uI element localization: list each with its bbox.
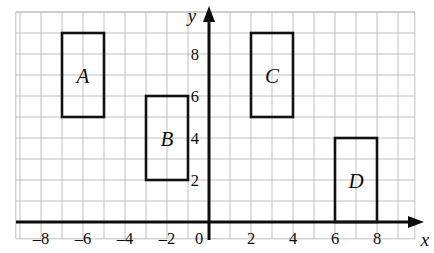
x-tick-label: 6 bbox=[331, 229, 339, 248]
figure-background bbox=[0, 0, 434, 253]
y-tick-label: 2 bbox=[191, 171, 199, 190]
x-tick-label: –2 bbox=[158, 229, 176, 248]
x-axis-name: x bbox=[420, 229, 430, 250]
y-axis-name: y bbox=[186, 5, 197, 26]
shape-label-d: D bbox=[347, 169, 363, 193]
shape-label-b: B bbox=[161, 127, 174, 151]
x-tick-label: 8 bbox=[373, 229, 381, 248]
x-tick-label: 4 bbox=[289, 229, 297, 248]
x-tick-label: –8 bbox=[32, 229, 50, 248]
x-tick-label: 2 bbox=[247, 229, 255, 248]
y-tick-label: 6 bbox=[191, 87, 199, 106]
origin-label: 0 bbox=[195, 229, 203, 248]
coordinate-plane-figure: –8–6–4–2024682468 ABCD xy bbox=[0, 0, 434, 253]
y-tick-label: 8 bbox=[191, 45, 199, 64]
x-tick-label: –6 bbox=[74, 229, 92, 248]
shape-label-c: C bbox=[265, 64, 280, 88]
x-tick-label: –4 bbox=[116, 229, 134, 248]
y-tick-label: 4 bbox=[191, 129, 199, 148]
shape-label-a: A bbox=[75, 64, 90, 88]
